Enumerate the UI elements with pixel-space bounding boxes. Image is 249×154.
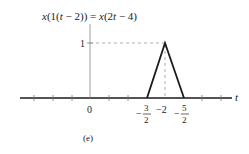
t-axis-label: t [235,91,239,103]
triangle-signal [147,43,184,98]
label-minus-2: −2 [156,104,167,115]
diagram-title: x(1(t − 2)) = x(2t − 4) [41,10,137,23]
origin-label: 0 [87,104,92,115]
label-minus-5-2-sign: − [174,108,180,119]
caption: (e) [83,133,93,143]
label-minus-3-2-sign: − [136,108,142,119]
label-minus-5-2-den: 2 [182,115,187,125]
label-minus-5-2-num: 5 [182,103,187,113]
label-minus-3-2-num: 3 [144,103,149,113]
signal-diagram: x(1(t − 2)) = x(2t − 4) 1 t 0 − 3 2 −2 −… [0,0,249,154]
label-minus-3-2-den: 2 [144,115,149,125]
y-tick-label: 1 [80,38,85,49]
